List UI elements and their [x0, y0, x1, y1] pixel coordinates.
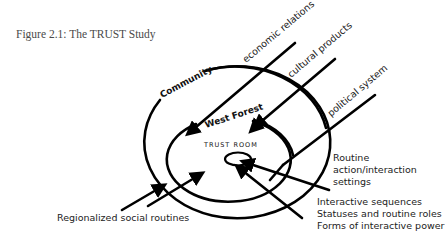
trust-study-diagram: Community West Forest TRUST ROOM economi… [0, 0, 448, 246]
routine-settings-arrow [244, 162, 329, 190]
west-forest-ring-tail [256, 121, 293, 155]
community-label: Community [158, 64, 214, 100]
interactive-label-2: Statuses and routine roles [317, 208, 442, 219]
regional-arrow-1 [122, 186, 163, 210]
interactive-label-3: Forms of interactive power [317, 220, 445, 231]
routine-settings-label-3: settings [333, 176, 371, 187]
cultural-products-arrow-head [252, 126, 256, 130]
trust-room-label: TRUST ROOM [203, 141, 258, 149]
interactive-arrow [238, 167, 302, 218]
west-forest-ring [167, 121, 291, 202]
routine-settings-label-1: Routine [333, 152, 369, 163]
interactive-label-1: Interactive sequences [317, 196, 422, 207]
routine-settings-label-2: action/interaction [333, 164, 417, 175]
regional-routines-label: Regionalized social routines [57, 212, 189, 223]
